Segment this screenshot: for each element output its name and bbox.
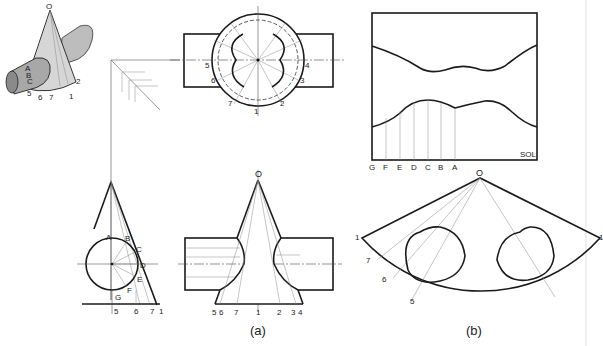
- svg-text:A: A: [106, 233, 112, 242]
- front-apex-label: O: [255, 169, 262, 179]
- svg-text:6: 6: [211, 76, 216, 85]
- svg-text:7: 7: [366, 256, 371, 265]
- svg-text:6: 6: [382, 275, 387, 284]
- svg-text:1: 1: [159, 307, 164, 316]
- svg-text:4: 4: [305, 61, 310, 70]
- svg-text:E: E: [397, 163, 402, 172]
- svg-text:7: 7: [150, 307, 155, 316]
- svg-text:B: B: [125, 234, 130, 243]
- svg-text:D: D: [140, 261, 146, 270]
- svg-text:4: 4: [298, 308, 303, 317]
- svg-text:2: 2: [277, 308, 282, 317]
- svg-text:B: B: [438, 163, 443, 172]
- svg-text:6: 6: [219, 308, 224, 317]
- svg-text:6: 6: [38, 93, 43, 102]
- svg-text:5: 5: [410, 297, 415, 306]
- svg-text:1: 1: [355, 233, 360, 242]
- svg-text:3: 3: [300, 76, 305, 85]
- caption-b: (b): [466, 323, 482, 338]
- svg-text:2: 2: [280, 99, 285, 108]
- pictorial-view: O A B C 5 6 7 1 2: [6, 2, 93, 102]
- svg-text:F: F: [127, 286, 132, 295]
- svg-text:2: 2: [76, 77, 81, 86]
- svg-text:3: 3: [291, 308, 296, 317]
- cylinder-development: SOL G F E D C B A: [369, 13, 537, 172]
- svg-text:7: 7: [228, 99, 233, 108]
- intersection-drawing: O A B C 5 6 7 1 2: [0, 0, 603, 346]
- pictorial-apex-label: O: [46, 2, 52, 11]
- svg-text:1: 1: [254, 107, 259, 116]
- svg-text:5: 5: [212, 308, 217, 317]
- svg-text:F: F: [383, 163, 388, 172]
- top-view: 5 6 7 1 2 3 4: [170, 6, 345, 116]
- svg-text:C: C: [425, 163, 431, 172]
- svg-text:C: C: [27, 77, 33, 86]
- svg-text:1: 1: [599, 233, 603, 242]
- sol-label: SOL: [520, 150, 537, 159]
- svg-text:D: D: [411, 163, 417, 172]
- svg-text:5: 5: [27, 89, 32, 98]
- cone-development: O 1 7 6 5 1 (b): [355, 168, 603, 338]
- svg-text:1: 1: [69, 92, 74, 101]
- svg-text:1: 1: [256, 308, 261, 317]
- caption-a: (a): [250, 323, 266, 338]
- svg-text:A: A: [452, 163, 458, 172]
- side-view: A B C D E F G 5 6 7 1: [77, 180, 164, 316]
- svg-text:G: G: [115, 293, 121, 302]
- svg-text:5: 5: [114, 307, 119, 316]
- svg-text:6: 6: [134, 307, 139, 316]
- svg-text:G: G: [369, 163, 375, 172]
- svg-text:7: 7: [234, 308, 239, 317]
- svg-text:5: 5: [205, 61, 210, 70]
- front-view: O 5 6 7 1 2 3 4 (a): [178, 169, 342, 338]
- svg-text:7: 7: [49, 93, 54, 102]
- cone-dev-apex-label: O: [476, 168, 483, 178]
- svg-text:E: E: [137, 275, 142, 284]
- svg-text:C: C: [136, 245, 142, 254]
